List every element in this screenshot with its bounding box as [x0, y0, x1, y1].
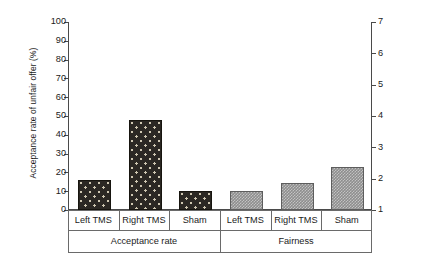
category-separator	[169, 210, 170, 230]
group-label: Acceptance rate	[68, 230, 220, 252]
right-axis-tick-label: 2	[378, 174, 402, 183]
category-separator	[220, 210, 221, 230]
right-axis-tick	[372, 85, 376, 86]
category-label: Sham	[321, 210, 372, 230]
right-axis-tick-label: 3	[378, 143, 402, 152]
category-label: Left TMS	[220, 210, 271, 230]
category-label-band: Left TMSRight TMSShamLeft TMSRight TMSSh…	[68, 210, 372, 230]
bar	[78, 180, 111, 210]
right-axis-tick-label: 7	[378, 17, 402, 26]
bar	[230, 191, 263, 210]
right-axis-tick	[372, 210, 376, 211]
right-axis-tick	[372, 22, 376, 23]
right-axis-tick-label: 5	[378, 80, 402, 89]
category-label: Left TMS	[68, 210, 119, 230]
group-label-band: Acceptance rateFairness	[68, 230, 372, 252]
left-axis-tick-label: 50	[36, 111, 66, 120]
group-separator	[220, 230, 221, 252]
bar	[331, 167, 364, 210]
left-axis-tick-label: 20	[36, 168, 66, 177]
left-axis-tick-label: 70	[36, 74, 66, 83]
right-axis-tick-label: 4	[378, 111, 402, 120]
right-axis-tick-label: 6	[378, 49, 402, 58]
left-axis-tick-label: 60	[36, 93, 66, 102]
left-axis-tick-label: 30	[36, 149, 66, 158]
bar	[129, 120, 162, 210]
category-separator	[271, 210, 272, 230]
category-label: Right TMS	[119, 210, 170, 230]
bar	[179, 191, 212, 210]
left-axis-tick-label: 40	[36, 130, 66, 139]
right-axis-tick	[372, 147, 376, 148]
group-separator	[371, 230, 372, 252]
category-separator	[371, 210, 372, 230]
category-separator	[321, 210, 322, 230]
bar	[281, 183, 314, 210]
group-label: Fairness	[220, 230, 372, 252]
right-axis-tick	[372, 116, 376, 117]
left-axis-line	[68, 22, 69, 210]
plot-area: 0102030405060708090100 1234567	[68, 22, 372, 210]
category-separator	[119, 210, 120, 230]
left-axis-tick-label: 10	[36, 187, 66, 196]
category-label: Sham	[169, 210, 220, 230]
category-label: Right TMS	[271, 210, 322, 230]
left-axis-tick-label: 80	[36, 55, 66, 64]
right-axis-tick	[372, 179, 376, 180]
left-axis-tick-label: 100	[36, 17, 66, 26]
category-separator	[68, 210, 69, 230]
group-band-bottom-rule	[68, 252, 372, 253]
right-axis-tick-label: 1	[378, 205, 402, 214]
left-axis-tick-label: 0	[36, 205, 66, 214]
left-axis-tick-label: 90	[36, 36, 66, 45]
right-axis-tick	[372, 53, 376, 54]
bar-chart: Acceptance rate of unfair offer (%) Fair…	[0, 0, 448, 278]
group-separator	[68, 230, 69, 252]
